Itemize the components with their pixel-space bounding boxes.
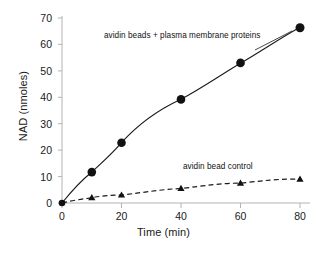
x-tick-label-40: 40: [166, 210, 196, 222]
series-line-avidin-bead-control: [62, 179, 300, 203]
y-axis-ticks: [58, 18, 62, 203]
chart-figure: 70 60 50 40 30 20 10 0 0 20 40 60 80 Tim…: [0, 0, 327, 256]
x-tick-label-20: 20: [107, 210, 137, 222]
x-axis-title: Time (min): [0, 226, 327, 238]
x-axis-ticks: [62, 203, 300, 208]
series-annotation-lower: avidin bead control: [183, 162, 253, 171]
annotation-leader-line: [255, 31, 292, 50]
series-markers-avidin-beads-plasma-membrane-proteins: [59, 23, 305, 206]
x-tick-label-0: 0: [47, 210, 77, 222]
x-tick-label-60: 60: [226, 210, 256, 222]
series-annotation-upper: avidin beads + plasma membrane proteins: [104, 31, 260, 40]
series-markers-avidin-bead-control: [88, 176, 303, 201]
y-axis-title: NAD (nmoles): [17, 36, 29, 176]
y-tick-label-0: 0: [22, 197, 52, 209]
x-tick-label-80: 80: [285, 210, 315, 222]
series-line-avidin-beads-plasma-membrane-proteins: [62, 27, 300, 203]
y-tick-label-70: 70: [22, 12, 52, 24]
